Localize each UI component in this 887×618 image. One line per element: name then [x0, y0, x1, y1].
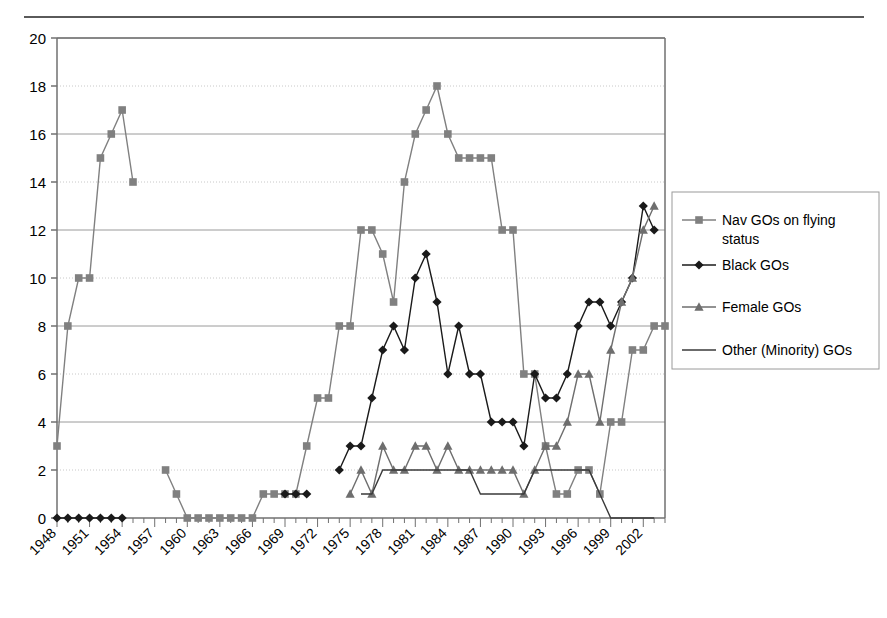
data-point-marker: [389, 321, 398, 330]
series-0: [53, 82, 669, 522]
data-point-marker: [432, 297, 441, 306]
legend-label: Nav GOs on flying: [722, 212, 836, 228]
data-point-marker: [487, 417, 496, 426]
data-point-marker: [259, 490, 267, 498]
data-point-marker: [86, 274, 94, 282]
x-axis-tick-label: 1981: [384, 525, 417, 558]
data-point-marker: [238, 514, 246, 522]
x-axis-tick-label: 1975: [319, 525, 352, 558]
series-line: [339, 206, 654, 470]
data-point-marker: [194, 514, 202, 522]
x-axis-tick-label: 1984: [417, 525, 450, 558]
data-point-marker: [378, 345, 387, 354]
x-axis-tick-label: 2002: [612, 525, 645, 558]
data-point-marker: [639, 201, 648, 210]
data-point-marker: [325, 394, 333, 402]
data-point-marker: [606, 321, 615, 330]
x-axis-tick-label: 1999: [579, 525, 612, 558]
x-axis-tick-label: 1966: [221, 525, 254, 558]
data-point-marker: [466, 154, 474, 162]
data-point-marker: [661, 322, 669, 330]
data-point-marker: [411, 130, 419, 138]
data-point-marker: [455, 154, 463, 162]
legend-label: Black GOs: [722, 257, 789, 273]
data-point-marker: [346, 322, 354, 330]
data-point-marker: [118, 106, 126, 114]
data-point-marker: [639, 346, 647, 354]
legend-label: Other (Minority) GOs: [722, 342, 852, 358]
x-axis-tick-label: 1960: [156, 525, 189, 558]
data-point-marker: [443, 441, 452, 450]
data-point-marker: [563, 369, 572, 378]
data-series: [52, 82, 668, 522]
data-point-marker: [85, 513, 94, 522]
data-point-marker: [205, 514, 213, 522]
data-point-marker: [422, 249, 431, 258]
data-point-marker: [107, 513, 116, 522]
data-point-marker: [107, 130, 115, 138]
data-point-marker: [400, 345, 409, 354]
data-point-marker: [629, 346, 637, 354]
series-1: [52, 201, 658, 522]
x-axis-tick-label: 1972: [286, 525, 319, 558]
x-axis-tick-label: 1948: [26, 525, 59, 558]
x-axis-tick-label: 1990: [482, 525, 515, 558]
data-point-marker: [118, 513, 127, 522]
data-point-marker: [346, 441, 355, 450]
data-point-marker: [552, 393, 561, 402]
data-point-marker: [63, 513, 72, 522]
data-point-marker: [367, 393, 376, 402]
data-point-marker: [443, 369, 452, 378]
series-2: [346, 201, 659, 498]
data-point-marker: [249, 514, 257, 522]
data-point-marker: [53, 442, 61, 450]
data-point-marker: [75, 274, 83, 282]
data-point-marker: [335, 465, 344, 474]
x-axis-tick-label: 1969: [254, 525, 287, 558]
data-point-marker: [390, 298, 398, 306]
data-point-marker: [618, 418, 626, 426]
data-point-marker: [96, 513, 105, 522]
data-point-marker: [553, 490, 561, 498]
y-axis-tick-label: 18: [29, 78, 46, 95]
y-axis-tick-label: 16: [29, 126, 46, 143]
data-point-marker: [508, 417, 517, 426]
data-point-marker: [302, 489, 311, 498]
data-point-marker: [465, 369, 474, 378]
y-axis-tick-label: 10: [29, 270, 46, 287]
x-axis-tick-label: 1954: [91, 525, 124, 558]
data-point-marker: [346, 489, 355, 498]
x-axis-tick-label: 1951: [58, 525, 91, 558]
data-point-marker: [487, 154, 495, 162]
chart-container: 02468101214161820 1948195119541957196019…: [0, 0, 887, 618]
x-axis-tick-label: 1963: [189, 525, 222, 558]
data-point-marker: [356, 441, 365, 450]
gridlines: [57, 38, 665, 470]
data-point-marker: [433, 82, 441, 90]
data-point-marker: [606, 345, 615, 354]
y-axis-tick-label: 4: [38, 414, 46, 431]
data-point-marker: [477, 154, 485, 162]
data-point-marker: [607, 418, 615, 426]
data-point-marker: [411, 273, 420, 282]
x-axis-ticks: 1948195119541957196019631966196919721975…: [26, 518, 665, 558]
data-point-marker: [379, 250, 387, 258]
data-point-marker: [335, 322, 343, 330]
data-point-marker: [541, 393, 550, 402]
series-3: [361, 470, 654, 518]
data-point-marker: [650, 322, 658, 330]
data-point-marker: [64, 322, 72, 330]
data-point-marker: [498, 226, 506, 234]
data-point-marker: [303, 442, 311, 450]
data-point-marker: [129, 178, 137, 186]
data-point-marker: [584, 297, 593, 306]
data-point-marker: [519, 441, 528, 450]
data-point-marker: [74, 513, 83, 522]
x-axis-tick-label: 1993: [514, 525, 547, 558]
data-point-marker: [52, 513, 61, 522]
data-point-marker: [368, 226, 376, 234]
data-point-marker: [227, 514, 235, 522]
y-axis-tick-label: 2: [38, 462, 46, 479]
x-axis-tick-label: 1996: [547, 525, 580, 558]
data-point-marker: [444, 130, 452, 138]
